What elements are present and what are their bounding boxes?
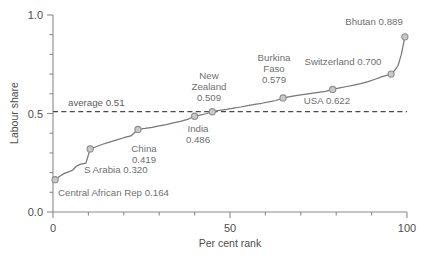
annotation-new-zealand-line3: 0.509 [197, 92, 221, 103]
marker-bhutan [402, 34, 408, 40]
annotation-new-zealand-line2: Zealand [191, 81, 226, 92]
x-axis-title: Per cent rank [199, 237, 262, 249]
annotation-india-line1: India [187, 123, 209, 134]
y-axis-tick-labels: 0.00.51.0 [28, 9, 43, 218]
y-axis-title: Labour share [8, 82, 20, 144]
marker-new-zealand [209, 109, 215, 115]
x-axis-ticks [53, 212, 407, 218]
x-tick-label-100: 100 [398, 222, 416, 234]
annotation-india-line2: 0.486 [186, 134, 210, 145]
marker-switzerland [388, 71, 394, 77]
annotation-switzerland: Switzerland 0.700 [304, 56, 382, 67]
annotation-new-zealand-line1: New [199, 70, 219, 81]
axes [53, 15, 407, 212]
y-tick-label-1: 1.0 [28, 9, 43, 21]
y-axis-ticks [47, 15, 53, 212]
marker-s-arabia [87, 146, 93, 152]
annotation-s-arabia: S Arabia 0.320 [84, 164, 148, 175]
labour-share-line-chart: 0.00.51.0 050100 Labour share Per cent r… [0, 0, 425, 266]
y-tick-label-0: 0.0 [28, 206, 43, 218]
annotation-burkina-faso-line2: Faso [263, 63, 285, 74]
marker-india [192, 113, 198, 119]
marker-usa [330, 86, 336, 92]
annotation-china-line2: 0.419 [132, 154, 156, 165]
x-axis-tick-labels: 050100 [50, 222, 416, 234]
y-tick-label-0-5: 0.5 [28, 108, 43, 120]
marker-central-african-rep [52, 177, 58, 183]
chart-container: 0.00.51.0 050100 Labour share Per cent r… [0, 0, 425, 266]
annotation-china-line1: China [131, 143, 157, 154]
x-tick-label-50: 50 [224, 222, 236, 234]
annotation-usa: USA 0.622 [304, 95, 350, 106]
x-tick-label-0: 0 [50, 222, 56, 234]
annotation-bhutan: Bhutan 0.889 [345, 16, 403, 27]
marker-china [135, 126, 141, 132]
annotation-burkina-faso-line1: Burkina [258, 52, 291, 63]
average-line-label: average 0.51 [68, 97, 125, 108]
annotation-burkina-faso-line3: 0.579 [262, 74, 286, 85]
annotation-central-african-rep: Central African Rep 0.164 [58, 187, 170, 198]
marker-burkina-faso [280, 95, 286, 101]
